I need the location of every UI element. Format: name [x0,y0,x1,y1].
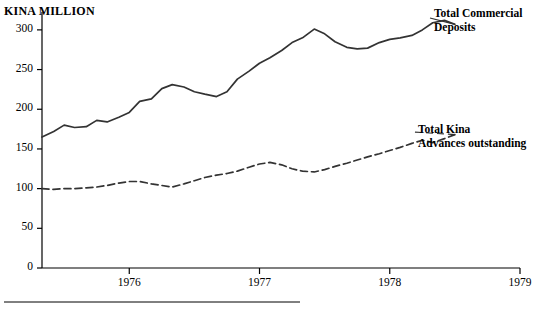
line-chart-plot [0,0,536,310]
series-line-commercial-deposits [42,20,455,137]
chart-series-layer [42,18,455,189]
chart-container: KINA MILLION Total Commercial Deposits T… [0,0,536,310]
x-tick-label-1977: 1977 [230,276,290,288]
x-tick-label-1979: 1979 [490,276,536,288]
y-tick-label-0: 0 [0,260,33,272]
x-tick-label-1976: 1976 [99,276,159,288]
series-label-commercial-deposits: Total Commercial Deposits [434,6,522,35]
series-line-kina-advances [42,135,455,190]
y-tick-label-300: 300 [0,22,33,34]
x-tick-label-1978: 1978 [360,276,420,288]
y-tick-label-200: 200 [0,101,33,113]
y-tick-label-50: 50 [0,220,33,232]
series-label-kina-advances: Total Kina Advances outstanding [418,122,526,151]
y-tick-label-250: 250 [0,62,33,74]
y-tick-label-150: 150 [0,141,33,153]
axis-unit-label: KINA MILLION [4,4,95,19]
y-tick-label-100: 100 [0,181,33,193]
